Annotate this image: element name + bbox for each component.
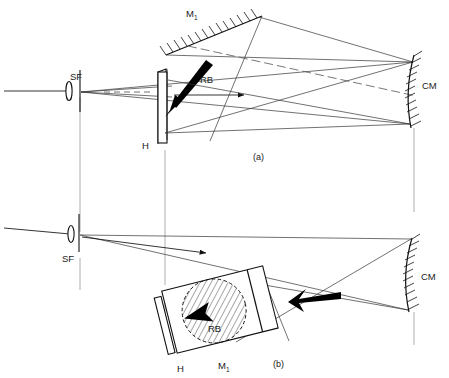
label-spatial-filter-b: SF	[62, 253, 74, 264]
sf-lens-icon-b	[68, 226, 74, 243]
label-concave-mirror-a: CM	[422, 80, 437, 91]
sf-lens-icon	[66, 82, 72, 101]
optical-diagram-figure: H M1	[0, 0, 449, 378]
label-spatial-filter-a: SF	[70, 71, 82, 82]
label-reference-beam-a: RB	[200, 74, 213, 85]
hologram-plate-a	[158, 69, 167, 143]
label-hologram-a: H	[142, 140, 149, 151]
panel-caption-a: (a)	[253, 152, 264, 162]
label-hologram-b: H	[177, 363, 184, 374]
label-reference-beam-b: RB	[208, 323, 221, 334]
panel-caption-b: (b)	[273, 359, 284, 369]
label-concave-mirror-b: CM	[421, 271, 436, 282]
